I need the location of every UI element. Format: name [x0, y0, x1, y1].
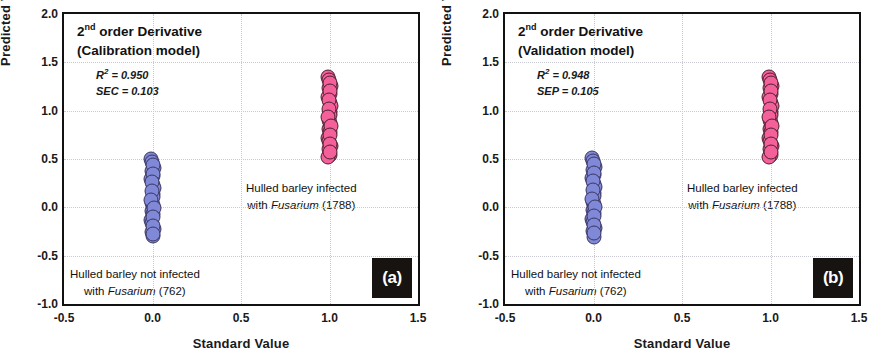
annotation-count: (762) [597, 285, 627, 297]
r-squared-symbol: R [96, 69, 104, 81]
x-axis-tick-label: 0.5 [233, 311, 250, 325]
sec-stat-a: SEC = 0.103 [96, 83, 159, 100]
y-axis-tick-label: 0.5 [41, 152, 58, 166]
statistics-block-b: R2 = 0.948 SEP = 0.105 [537, 66, 599, 100]
annotation-species: Fusarium [712, 199, 760, 211]
annotation-not-infected-line1: Hulled barley not infected [511, 266, 641, 283]
annotation-infected-line2: with Fusarium (1788) [246, 197, 357, 214]
data-point [586, 226, 601, 241]
title-superscript: nd [526, 22, 537, 32]
annotation-infected-line2: with Fusarium (1788) [687, 197, 798, 214]
annotation-not-infected-a: Hulled barley not infected with Fusarium… [70, 266, 200, 299]
plot-area-b: 2nd order Derivative (Validation model) … [503, 12, 861, 306]
annotation-not-infected-b: Hulled barley not infected with Fusarium… [511, 266, 641, 299]
r-squared-stat-b: R2 = 0.948 [537, 66, 599, 83]
y-axis-tick-label: 2.0 [41, 7, 58, 21]
panel-a: Predicted Value Standard Value 2nd order… [0, 0, 440, 359]
title-suffix: order Derivative [96, 24, 203, 39]
panel-title-line2-a: (Calibration model) [77, 41, 202, 60]
y-axis-tick-label: 0.0 [482, 200, 499, 214]
x-axis-tick-label: 1.0 [762, 311, 779, 325]
sep-stat-b: SEP = 0.105 [537, 83, 599, 100]
data-point [322, 145, 337, 160]
y-axis-tick-label: -1.0 [478, 297, 499, 311]
annotation-not-infected-line1: Hulled barley not infected [70, 266, 200, 283]
y-axis-tick-label: -0.5 [37, 249, 58, 263]
annotation-count: (1788) [319, 199, 355, 211]
x-axis-tick-label: 1.5 [410, 311, 427, 325]
plot-area-a: 2nd order Derivative (Calibration model)… [62, 12, 420, 306]
panel-title-line1-a: 2nd order Derivative [77, 21, 202, 41]
panel-title-line2-b: (Validation model) [518, 41, 643, 60]
annotation-infected-line1: Hulled barley infected [246, 180, 357, 197]
y-axis-tick-label: 0.0 [41, 200, 58, 214]
figure-container: Predicted Value Standard Value 2nd order… [0, 0, 881, 359]
gridline-vertical [682, 14, 683, 304]
x-axis-label: Standard Value [503, 336, 861, 351]
annotation-not-infected-line2: with Fusarium (762) [70, 283, 200, 300]
x-axis-tick-label: -0.5 [495, 311, 516, 325]
annotation-count: (1788) [760, 199, 796, 211]
statistics-block-a: R2 = 0.950 SEC = 0.103 [96, 66, 159, 100]
title-prefix: 2 [77, 24, 85, 39]
annotation-species: Fusarium [271, 199, 319, 211]
r-squared-stat-a: R2 = 0.950 [96, 66, 159, 83]
y-axis-tick-label: -0.5 [478, 249, 499, 263]
x-axis-tick-label: 0.0 [585, 311, 602, 325]
y-axis-tick-label: 1.5 [41, 55, 58, 69]
x-axis-tick-label: 0.0 [144, 311, 161, 325]
panel-tag-b: (b) [813, 258, 853, 298]
annotation-infected-line1: Hulled barley infected [687, 180, 798, 197]
title-suffix: order Derivative [537, 24, 644, 39]
y-axis-label: Predicted Value [0, 0, 13, 96]
panel-title-line1-b: 2nd order Derivative [518, 21, 643, 41]
r-squared-value: = 0.948 [549, 69, 589, 81]
annotation-count: (762) [156, 285, 186, 297]
panel-tag-a: (a) [372, 258, 412, 298]
x-axis-tick-label: 0.5 [674, 311, 691, 325]
annotation-infected-a: Hulled barley infected with Fusarium (17… [246, 180, 357, 213]
annotation-species: Fusarium [108, 285, 156, 297]
data-point [763, 145, 778, 160]
annotation-prefix: with [525, 285, 549, 297]
title-prefix: 2 [518, 24, 526, 39]
panel-title-b: 2nd order Derivative (Validation model) [518, 21, 643, 60]
annotation-prefix: with [688, 199, 712, 211]
x-axis-tick-label: -0.5 [54, 311, 75, 325]
x-axis-tick-label: 1.0 [321, 311, 338, 325]
annotation-prefix: with [84, 285, 108, 297]
y-axis-tick-label: -1.0 [37, 297, 58, 311]
y-axis-tick-label: 2.0 [482, 7, 499, 21]
panel-title-a: 2nd order Derivative (Calibration model) [77, 21, 202, 60]
data-point [145, 227, 160, 242]
y-axis-label: Predicted Value [439, 0, 454, 96]
annotation-infected-b: Hulled barley infected with Fusarium (17… [687, 180, 798, 213]
y-axis-tick-label: 1.0 [41, 104, 58, 118]
y-axis-tick-label: 1.5 [482, 55, 499, 69]
gridline-vertical [241, 14, 242, 304]
y-axis-tick-label: 0.5 [482, 152, 499, 166]
x-axis-label: Standard Value [62, 336, 420, 351]
y-axis-tick-label: 1.0 [482, 104, 499, 118]
annotation-prefix: with [247, 199, 271, 211]
panel-b: Predicted Value Standard Value 2nd order… [441, 0, 881, 359]
annotation-species: Fusarium [549, 285, 597, 297]
r-squared-symbol: R [537, 69, 545, 81]
r-squared-value: = 0.950 [108, 69, 148, 81]
annotation-not-infected-line2: with Fusarium (762) [511, 283, 641, 300]
x-axis-tick-label: 1.5 [851, 311, 868, 325]
title-superscript: nd [85, 22, 96, 32]
